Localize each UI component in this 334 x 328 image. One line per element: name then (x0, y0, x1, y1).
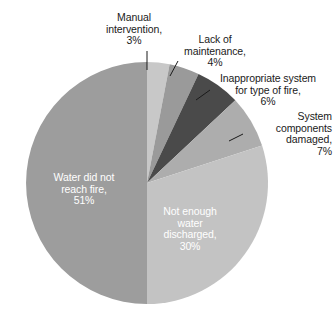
pie-chart-graphic (0, 0, 334, 328)
pie-chart-figure: Manual intervention, 3% Lack of maintena… (0, 0, 334, 328)
pie-label-water-did-not-reach-fire: Water did not reach fire, 51% (36, 172, 132, 207)
pie-label-lack-of-maintenance: Lack of maintenance, 4% (172, 34, 258, 69)
pie-label-system-components-damaged: System components damaged, 7% (246, 111, 332, 157)
pie-label-inappropriate-system: Inappropriate system for type of fire, 6… (204, 73, 332, 108)
pie-label-not-enough-water-discharged: Not enough water discharged, 30% (146, 206, 234, 252)
pie-label-manual-intervention: Manual intervention, 3% (86, 12, 182, 47)
